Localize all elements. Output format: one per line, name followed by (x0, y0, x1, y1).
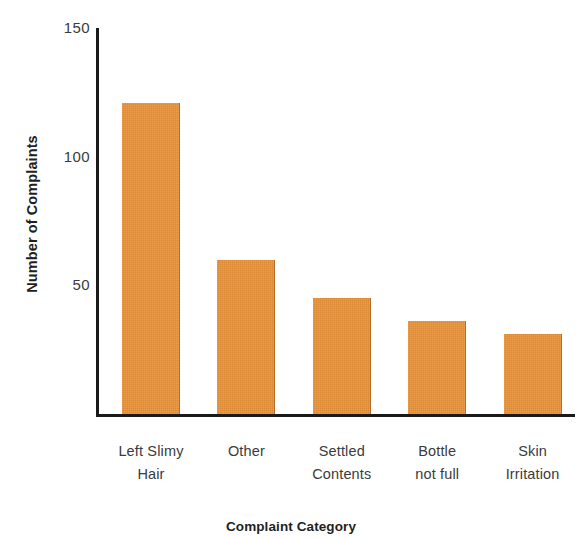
category-label-line-1: Skin (518, 443, 547, 459)
bar (122, 103, 180, 414)
bar (408, 321, 466, 414)
x-axis-title: Complaint Category (0, 519, 582, 534)
y-axis-tick-150: 150 (36, 19, 90, 36)
category-label-line-1: Left Slimy (118, 443, 183, 459)
bar (217, 260, 275, 414)
bar (504, 334, 562, 414)
category-label-line-2: Irritation (473, 463, 582, 486)
category-label-line-2: Hair (91, 463, 211, 486)
category-label-line-1: Bottle (418, 443, 456, 459)
y-axis-tick-labels: 150 100 50 (30, 0, 90, 416)
y-axis-tick-50: 50 (36, 276, 90, 293)
y-axis-tick-100: 100 (36, 148, 90, 165)
plot-area (98, 28, 575, 414)
category-label-line-1: Settled (319, 443, 365, 459)
category-label-line-1: Other (228, 443, 265, 459)
x-axis-category-labels: Left SlimyHairOtherSettledContentsBottle… (98, 440, 575, 500)
x-axis-category-label: SkinIrritation (473, 440, 582, 486)
x-axis-line (96, 414, 575, 417)
bar (313, 298, 371, 414)
bar-chart: Number of Complaints 150 100 50 Left Sli… (0, 0, 582, 539)
